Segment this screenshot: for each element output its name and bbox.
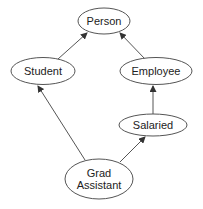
node-label: Employee — [132, 65, 181, 77]
node-salaried: Salaried — [119, 114, 187, 136]
edges-layer — [38, 33, 153, 162]
node-label: Assistant — [77, 179, 122, 191]
node-label: Person — [87, 15, 122, 27]
node-person: Person — [78, 8, 130, 34]
diagram-canvas: PersonStudentEmployeeSalariedGradAssista… — [0, 0, 203, 209]
node-label: Grad — [87, 167, 111, 179]
node-label: Salaried — [133, 119, 173, 131]
edge-student-to-person — [58, 33, 87, 59]
edge-grad-assistant-to-salaried — [120, 137, 145, 162]
node-student: Student — [11, 58, 75, 85]
nodes-layer: PersonStudentEmployeeSalariedGradAssista… — [11, 8, 192, 199]
inheritance-diagram: PersonStudentEmployeeSalariedGradAssista… — [0, 0, 203, 209]
edge-grad-assistant-to-student — [38, 86, 85, 160]
node-employee: Employee — [120, 58, 192, 85]
node-label: Student — [24, 65, 62, 77]
edge-employee-to-person — [120, 33, 145, 59]
node-grad-assistant: GradAssistant — [65, 159, 133, 199]
